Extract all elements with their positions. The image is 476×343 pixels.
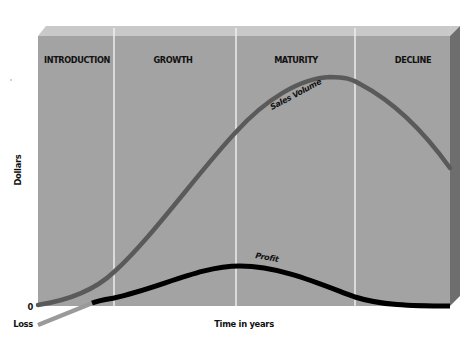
y-tick-zero: 0 xyxy=(27,302,33,312)
stage-label-maturity: MATURITY xyxy=(274,55,319,65)
x-axis-label: Time in years xyxy=(214,319,274,329)
stray-dot xyxy=(10,79,12,81)
stage-label-decline: DECLINE xyxy=(395,55,431,65)
stage-label-introduction: INTRODUCTION xyxy=(44,55,110,65)
y-axis-label: Dollars xyxy=(13,154,23,185)
product-life-cycle-chart: INTRODUCTION GROWTH MATURITY DECLINE Sal… xyxy=(0,0,476,343)
stage-label-growth: GROWTH xyxy=(153,55,193,65)
panel-side-face xyxy=(450,26,460,306)
y-tick-loss: Loss xyxy=(13,319,33,329)
panel-top-bevel xyxy=(38,26,460,36)
